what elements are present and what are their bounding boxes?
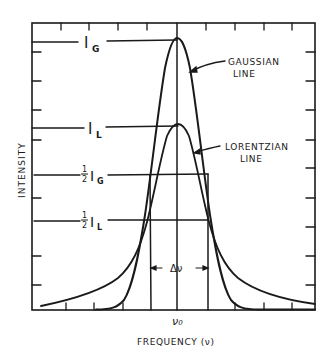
svg-text:1: 1	[82, 211, 87, 220]
gaussian-leader	[190, 61, 225, 72]
y-axis-label: INTENSITY	[17, 142, 27, 198]
svg-text:I: I	[90, 214, 94, 230]
label-half-IG: 1 2 I G	[81, 165, 104, 186]
svg-text:L: L	[97, 223, 102, 232]
lorentzian-label-line1: LORENTZIAN	[225, 142, 289, 152]
lorentzian-label-line2: LINE	[240, 154, 263, 164]
svg-text:G: G	[92, 44, 99, 54]
svg-text:L: L	[96, 130, 102, 140]
gaussian-label-line2: LINE	[233, 69, 256, 79]
label-IG: I G	[84, 34, 99, 54]
lorentzian-leader	[194, 146, 220, 154]
x-axis-label: FREQUENCY (ν)	[137, 337, 215, 347]
label-IL: I L	[88, 120, 102, 140]
right-axis-ticks	[306, 52, 315, 285]
lineshape-diagram: I G I L 1 2 I G 1 2 I L GAUSSIAN LINE LO…	[0, 0, 335, 355]
fwhm-left-line	[150, 175, 151, 310]
svg-text:2: 2	[82, 221, 87, 230]
svg-text:I: I	[90, 168, 94, 184]
left-axis-ticks	[32, 52, 41, 285]
label-half-IL: 1 2 I L	[81, 211, 102, 232]
svg-text:I: I	[88, 120, 92, 138]
svg-text:1: 1	[82, 165, 87, 174]
gaussian-label-line1: GAUSSIAN	[228, 57, 280, 67]
center-frequency-label: ν₀	[172, 315, 183, 328]
fwhm-label: Δν	[170, 263, 183, 274]
svg-text:G: G	[97, 177, 104, 186]
svg-text:2: 2	[82, 175, 87, 184]
svg-text:I: I	[84, 34, 88, 52]
